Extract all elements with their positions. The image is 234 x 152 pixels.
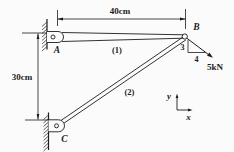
dimension-label-40cm: 40cm xyxy=(110,6,131,16)
wall-support-a xyxy=(42,19,47,51)
force-5kn: 3 4 5kN xyxy=(181,38,224,72)
dimension-arrow-down-icon xyxy=(37,114,40,120)
truss-diagram-canvas: 40cm 30cm xyxy=(0,0,234,152)
force-arrowhead-icon xyxy=(207,53,213,58)
y-axis-label: y xyxy=(166,91,172,101)
node-label-c: C xyxy=(61,134,68,144)
pin-hole-c-icon xyxy=(55,124,59,128)
slope-run-label: 4 xyxy=(195,55,199,64)
pin-support-c xyxy=(49,120,65,132)
dimension-label-30cm: 30cm xyxy=(12,72,33,82)
pin-support-a xyxy=(47,32,64,43)
dimension-top-40cm: 40cm xyxy=(58,6,186,29)
force-magnitude-label: 5kN xyxy=(207,62,224,72)
node-label-b: B xyxy=(192,22,199,32)
wall-support-c xyxy=(44,113,49,152)
member-1-lower-edge xyxy=(62,38,184,41)
dimension-arrow-right-icon xyxy=(180,18,186,21)
x-axis-label: x xyxy=(185,112,191,122)
member-1 xyxy=(62,33,184,42)
pin-hole-a-icon xyxy=(51,35,55,39)
slope-rise-label: 3 xyxy=(181,43,185,52)
coordinate-axes: y x xyxy=(166,91,193,122)
node-label-a: A xyxy=(53,45,60,55)
member-2-label: (2) xyxy=(125,87,135,97)
member-1-label: (1) xyxy=(112,45,122,55)
wall-hatch-a xyxy=(42,22,47,51)
dimension-arrow-up-icon xyxy=(37,34,40,40)
truss-diagram: 40cm 30cm xyxy=(0,0,234,152)
y-axis-arrow-icon xyxy=(176,94,179,99)
dimension-arrow-left-icon xyxy=(58,18,64,21)
x-axis-arrow-icon xyxy=(188,109,193,112)
dimension-left-30cm: 30cm xyxy=(12,33,50,120)
pin-joint-b-icon xyxy=(182,34,187,39)
member-1-upper-edge xyxy=(62,33,184,35)
